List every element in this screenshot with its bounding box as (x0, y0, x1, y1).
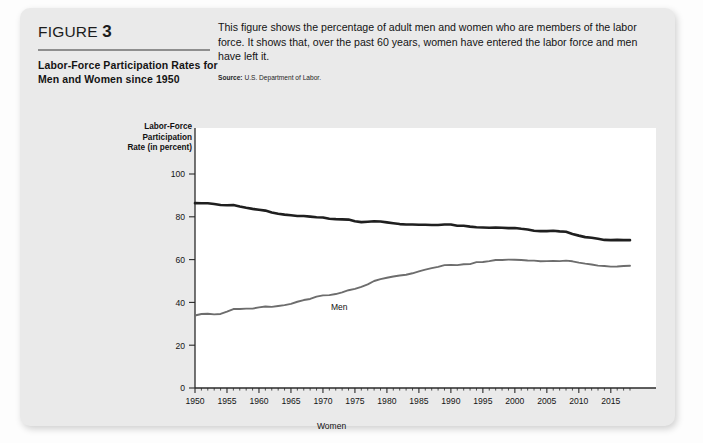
figure-description: This figure shows the percentage of adul… (218, 20, 658, 64)
x-tick-label: 1980 (377, 396, 396, 406)
series-annotation-men: Men (331, 302, 348, 312)
x-tick-label: 1965 (281, 396, 300, 406)
y-tick-label: 40 (175, 298, 185, 308)
figure-kicker: FIGURE 3 (38, 22, 218, 42)
x-tick-label: 2015 (601, 396, 620, 406)
figure-header-right: This figure shows the percentage of adul… (218, 20, 658, 82)
x-tick-label: 1975 (345, 396, 364, 406)
figure-title: Labor-Force Participation Rates for Men … (38, 59, 218, 86)
series-annotation-women: Women (317, 421, 346, 431)
source-text: U.S. Department of Labor. (244, 74, 321, 81)
figure-header-left: FIGURE 3 Labor-Force Participation Rates… (38, 22, 218, 86)
x-tick-label: 2010 (569, 396, 588, 406)
x-tick-label: 2005 (537, 396, 556, 406)
x-tick-label: 1960 (249, 396, 268, 406)
x-tick-label: 1985 (409, 396, 428, 406)
source-label: Source: (218, 74, 243, 81)
x-tick-label: 1950 (185, 396, 204, 406)
x-tick-label: 1955 (217, 396, 236, 406)
x-tick-label: 1995 (473, 396, 492, 406)
x-tick-label: 2000 (505, 396, 524, 406)
y-tick-label: 60 (175, 255, 185, 265)
figure-card: FIGURE 3 Labor-Force Participation Rates… (20, 8, 675, 426)
figure-kicker-number: 3 (102, 22, 112, 41)
y-tick-label: 20 (175, 341, 185, 351)
chart-area: Labor-Force Participation Rate (in perce… (20, 116, 675, 426)
line-chart: 0204060801001950195519601965197019751980… (20, 116, 675, 426)
y-tick-label: 100 (171, 169, 186, 179)
figure-page: FIGURE 3 Labor-Force Participation Rates… (0, 0, 703, 443)
y-tick-label: 0 (180, 383, 185, 393)
figure-kicker-label: FIGURE (38, 23, 98, 40)
plot-background (195, 128, 656, 388)
figure-source: Source: U.S. Department of Labor. (218, 73, 658, 82)
x-tick-label: 1970 (313, 396, 332, 406)
header-divider (38, 49, 210, 51)
y-tick-label: 80 (175, 212, 185, 222)
x-tick-label: 1990 (441, 396, 460, 406)
